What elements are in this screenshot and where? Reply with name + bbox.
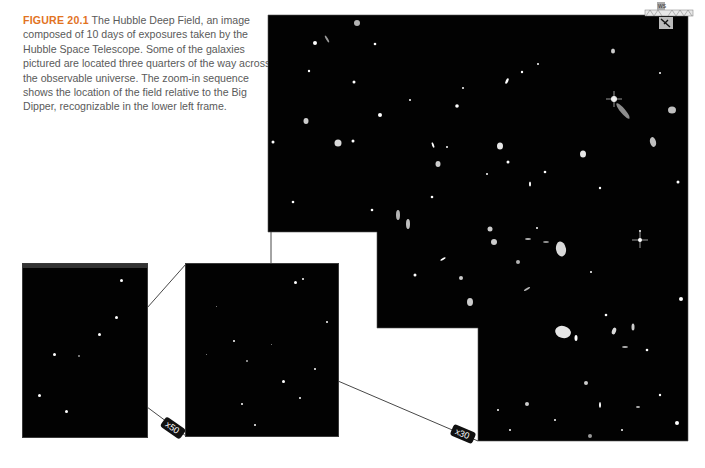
zoom-frame	[186, 264, 338, 436]
big-dipper-frame	[23, 264, 147, 437]
zoom-label-x30: x30	[450, 424, 477, 444]
svg-text:WS: WS	[658, 3, 667, 9]
